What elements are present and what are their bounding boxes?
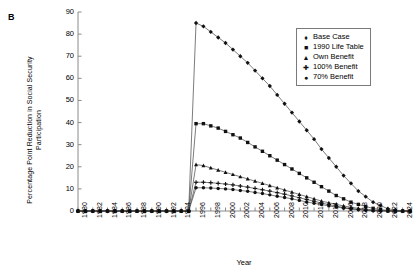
legend-item-label: Base Case: [311, 33, 350, 41]
x-tick-label: 2022: [391, 202, 398, 218]
y-tick-label: 30: [56, 141, 74, 149]
legend-item[interactable]: ♦Base Case: [301, 32, 364, 42]
x-tick-label: 1992: [170, 202, 177, 218]
dot-marker: ●: [301, 74, 311, 81]
x-tick-label: 1982: [96, 202, 103, 218]
legend-item-label: 1990 Life Table: [311, 43, 364, 51]
x-tick-label: 2012: [317, 202, 324, 218]
diamond-marker: ♦: [301, 34, 311, 41]
x-tick-label: 2008: [288, 202, 295, 218]
plus-marker: ✚: [301, 64, 311, 71]
y-axis-tick-labels: 0102030405060708090: [54, 12, 74, 211]
legend-item-label: 70% Benefit: [311, 73, 353, 81]
y-tick-label: 70: [56, 52, 74, 60]
x-tick-label: 1996: [199, 202, 206, 218]
y-tick-label: 90: [56, 8, 74, 16]
legend-item[interactable]: ▲Own Benefit: [301, 52, 364, 62]
x-tick-label: 1984: [111, 202, 118, 218]
y-tick-label: 0: [56, 207, 74, 215]
x-tick-label: 2018: [361, 202, 368, 218]
x-tick-label: 2020: [376, 202, 383, 218]
y-tick-label: 40: [56, 119, 74, 127]
x-tick-label: 2006: [273, 202, 280, 218]
x-axis-title: Year: [78, 258, 410, 267]
panel-label: B: [8, 12, 15, 22]
x-tick-label: 2024: [406, 202, 413, 218]
x-axis-tick-labels: 1980198219841986198819901992199419961998…: [78, 216, 410, 256]
x-tick-label: 2002: [243, 202, 250, 218]
legend-item-label: 100% Benefit: [311, 63, 358, 71]
y-axis-title: Percentage Point Reduction in Social Sec…: [26, 55, 43, 205]
legend-item-label: Own Benefit: [311, 53, 354, 61]
square-marker: ■: [301, 44, 311, 51]
x-tick-label: 1980: [81, 202, 88, 218]
y-tick-label: 10: [56, 185, 74, 193]
x-tick-label: 1986: [125, 202, 132, 218]
x-tick-label: 1998: [214, 202, 221, 218]
x-tick-label: 2000: [229, 202, 236, 218]
y-tick-label: 50: [56, 96, 74, 104]
x-tick-label: 2004: [258, 202, 265, 218]
legend-item[interactable]: ✚100% Benefit: [301, 62, 364, 72]
legend-item[interactable]: ●70% Benefit: [301, 72, 364, 82]
figure-panel-b: B Percentage Point Reduction in Social S…: [0, 0, 420, 276]
chart-legend: ♦Base Case■1990 Life Table▲Own Benefit✚1…: [296, 28, 371, 86]
x-tick-label: 2016: [347, 202, 354, 218]
legend-item[interactable]: ■1990 Life Table: [301, 42, 364, 52]
x-tick-label: 2010: [302, 202, 309, 218]
x-tick-label: 1994: [184, 202, 191, 218]
y-tick-label: 60: [56, 74, 74, 82]
x-tick-label: 1988: [140, 202, 147, 218]
y-tick-label: 20: [56, 163, 74, 171]
x-tick-label: 2014: [332, 202, 339, 218]
y-tick-label: 80: [56, 30, 74, 38]
series-1990-life-table: [76, 122, 411, 213]
triangle-marker: ▲: [301, 54, 311, 61]
x-tick-label: 1990: [155, 202, 162, 218]
